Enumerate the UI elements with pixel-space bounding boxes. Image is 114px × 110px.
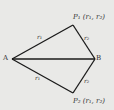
edge-a-p1 <box>12 25 73 59</box>
edge-label-a-p1: r₁ <box>37 34 42 40</box>
edge-label-a-p2: r₁ <box>35 75 40 81</box>
point-label-a: A <box>3 55 8 62</box>
edge-p2-b <box>73 59 95 93</box>
edge-label-p1-b: r₂ <box>84 35 89 41</box>
point-label-p2: P₂ (r₁, r₂) <box>73 98 105 105</box>
edge-label-p2-b: r₂ <box>84 78 89 84</box>
edge-a-p2 <box>12 59 73 93</box>
edge-p1-b <box>73 25 95 59</box>
point-label-p1: P₁ (r₁, r₂) <box>73 14 105 21</box>
point-label-b: B <box>96 55 101 62</box>
